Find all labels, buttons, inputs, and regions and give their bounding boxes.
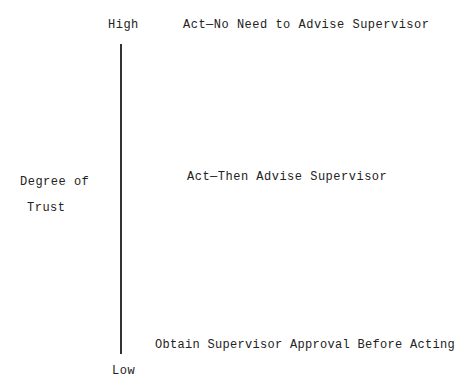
- level-high-label: Act—No Need to Advise Supervisor: [183, 18, 429, 32]
- axis-title-line2: Trust: [27, 201, 66, 215]
- trust-axis-line: [120, 44, 122, 354]
- axis-title-line1: Degree of: [20, 175, 89, 189]
- level-mid-label: Act—Then Advise Supervisor: [187, 170, 387, 184]
- axis-high-label: High: [108, 18, 139, 32]
- axis-low-label: Low: [112, 364, 135, 378]
- level-low-label: Obtain Supervisor Approval Before Acting: [155, 338, 455, 352]
